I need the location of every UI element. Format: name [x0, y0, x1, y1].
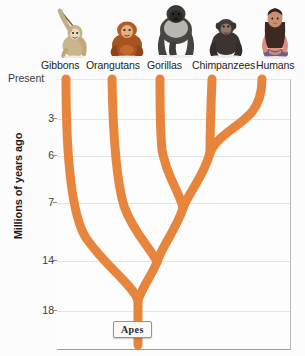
chimpanzee-photo — [204, 12, 248, 58]
gridline-7 — [57, 203, 290, 204]
species-label-gorillas: Gorillas — [147, 59, 182, 71]
y-tick-label-7: 7 — [36, 196, 54, 208]
gridline-6 — [57, 156, 290, 157]
y-tick-label-14: 14 — [36, 254, 54, 266]
gorilla-photo — [152, 2, 200, 58]
gibbon-photo — [50, 6, 96, 58]
figure-root: Gibbons Orangutans Gorillas Chimpanzees … — [0, 0, 305, 356]
y-tick-label-group: 3 6 7 14 18 — [30, 0, 54, 356]
y-tick-label-6: 6 — [36, 149, 54, 161]
y-tick-label-18: 18 — [36, 304, 54, 316]
species-label-humans: Humans — [256, 59, 295, 71]
plot-area — [57, 79, 291, 350]
gridline-3 — [57, 119, 290, 120]
orangutan-photo — [104, 12, 150, 58]
y-axis-label: Millions of years ago — [12, 121, 24, 251]
species-label-orangutans: Orangutans — [86, 59, 140, 71]
gridline-14 — [57, 261, 290, 262]
human-photo — [252, 3, 298, 59]
root-label-apes: Apes — [113, 321, 152, 338]
species-label-chimpanzees: Chimpanzees — [192, 59, 255, 71]
y-tick-label-3: 3 — [36, 112, 54, 124]
gridline-18 — [57, 311, 290, 312]
